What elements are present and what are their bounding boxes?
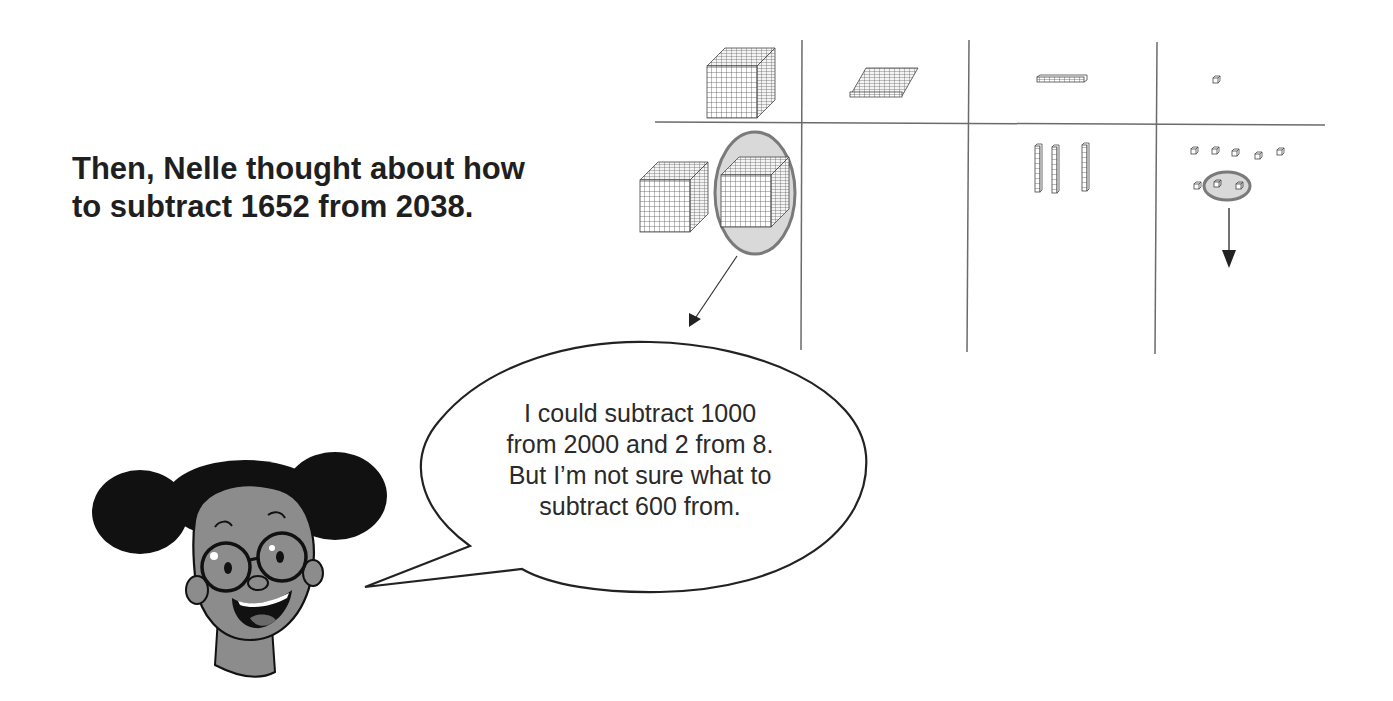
- column-divider: [801, 40, 802, 350]
- tens-rod-icon: [1037, 75, 1087, 82]
- illustration-canvas: [0, 0, 1393, 701]
- speech-line: subtract 600 from.: [440, 491, 840, 522]
- ones-unit-icon: [1194, 182, 1201, 189]
- arrowhead-icon: [1222, 250, 1236, 268]
- intro-text: Then, Nelle thought about how to subtrac…: [72, 150, 525, 226]
- ones-unit-icon: [1232, 149, 1239, 156]
- thousands-cube-icon: [707, 48, 775, 118]
- arrow-icon: [694, 256, 737, 320]
- place-value-chart: [640, 40, 1325, 354]
- hundreds-flat-icon: [850, 68, 918, 97]
- speech-line: I could subtract 1000: [440, 398, 840, 429]
- ones-unit-icon: [1277, 148, 1284, 155]
- column-divider: [1155, 42, 1157, 354]
- thousands-cube-icon: [640, 162, 708, 232]
- ones-unit-icon: [1212, 147, 1219, 154]
- column-divider: [967, 40, 969, 352]
- speech-bubble-text: I could subtract 1000 from 2000 and 2 fr…: [440, 398, 840, 522]
- intro-line: Then, Nelle thought about how: [72, 150, 525, 188]
- tens-rod-icon: [1052, 145, 1059, 193]
- tens-rod-icon: [1082, 143, 1089, 191]
- speech-line: But I’m not sure what to: [440, 460, 840, 491]
- nelle-avatar: [92, 452, 387, 677]
- speech-line: from 2000 and 2 from 8.: [440, 429, 840, 460]
- ones-unit-icon: [1191, 147, 1198, 154]
- ones-unit-icon: [1213, 76, 1220, 83]
- intro-line: to subtract 1652 from 2038.: [72, 188, 525, 226]
- arrowhead-icon: [689, 313, 701, 327]
- ones-unit-icon: [1255, 152, 1262, 159]
- row-divider: [655, 122, 1325, 125]
- thousands-cube-icon: [721, 157, 789, 227]
- tens-rod-icon: [1035, 144, 1042, 192]
